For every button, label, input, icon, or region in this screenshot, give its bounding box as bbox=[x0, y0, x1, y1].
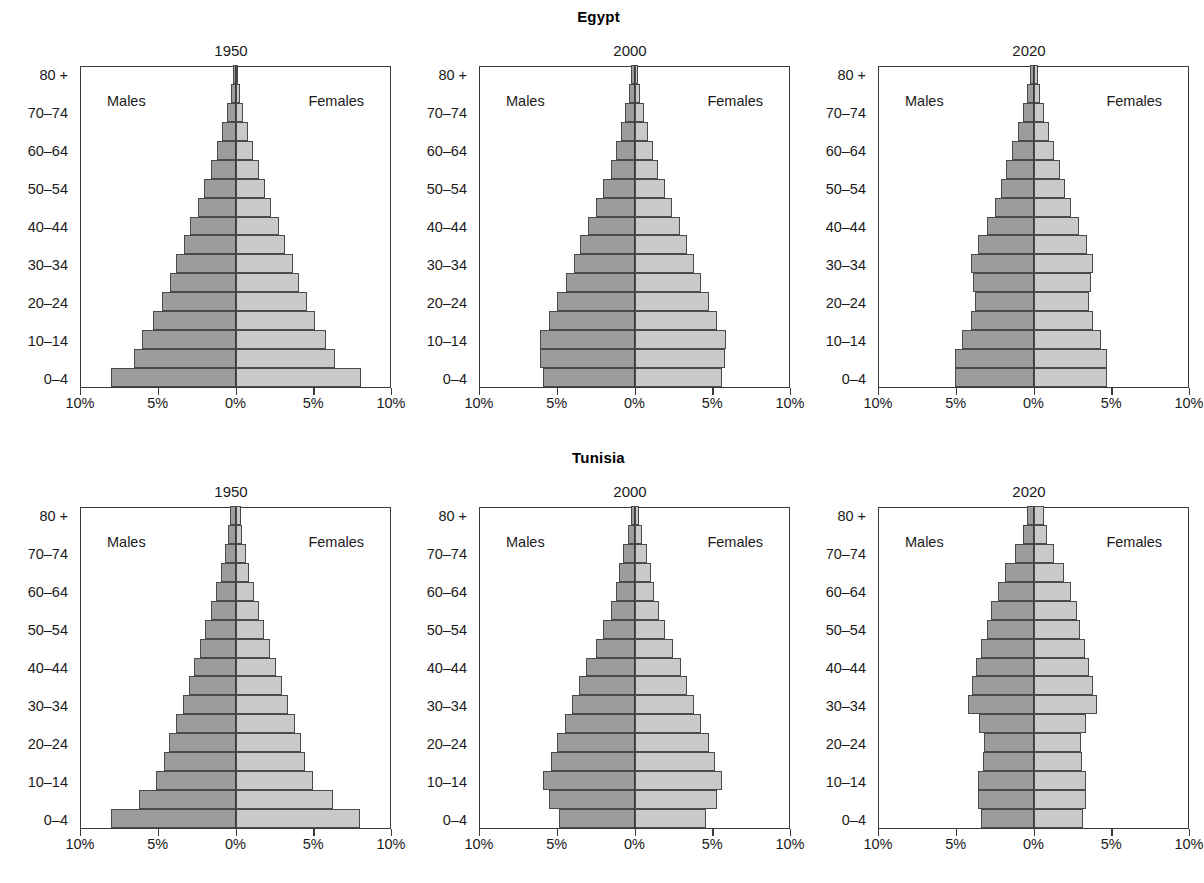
males-label: Males bbox=[107, 534, 146, 550]
plot-area: MalesFemales bbox=[80, 66, 391, 388]
year-title-tunisia-2020: 2020 bbox=[870, 483, 1188, 500]
bar-female bbox=[635, 582, 654, 601]
bar-female bbox=[635, 235, 688, 254]
bar-male bbox=[596, 639, 635, 658]
bar-male bbox=[586, 658, 634, 677]
bar-male bbox=[603, 620, 634, 639]
bar-male bbox=[619, 563, 635, 582]
bar-female bbox=[236, 714, 295, 733]
bar-male bbox=[222, 122, 235, 141]
y-tick-label: 10–14 bbox=[28, 774, 68, 790]
bar-male bbox=[981, 639, 1033, 658]
bar-male bbox=[189, 676, 236, 695]
bar-female bbox=[236, 695, 289, 714]
x-tick bbox=[1111, 388, 1112, 395]
bar-male bbox=[543, 771, 635, 790]
bar-male bbox=[164, 752, 236, 771]
bar-female bbox=[236, 544, 246, 563]
bar-male bbox=[603, 179, 634, 198]
x-tick-label: 0% bbox=[624, 395, 645, 411]
y-tick-label: 70–74 bbox=[826, 546, 866, 562]
bar-female bbox=[635, 620, 665, 639]
bar-female bbox=[635, 179, 665, 198]
bar-female bbox=[236, 311, 315, 330]
bar-male bbox=[557, 292, 635, 311]
bar-female bbox=[1034, 506, 1044, 525]
bar-female bbox=[635, 122, 649, 141]
bar-male bbox=[1015, 544, 1034, 563]
x-tick-label: 5% bbox=[147, 836, 168, 852]
bar-female bbox=[635, 217, 680, 236]
country-row-egypt: Egypt 19500–410–1420–2430–3440–4450–5460… bbox=[0, 0, 1197, 441]
y-tick-label: 80 + bbox=[438, 67, 467, 83]
bar-male bbox=[574, 254, 635, 273]
pyramid-tunisia-2000: 20000–410–1420–2430–3440–4450–5460–6470–… bbox=[399, 483, 789, 883]
bar-female bbox=[236, 198, 272, 217]
bar-male bbox=[169, 733, 236, 752]
bar-male bbox=[580, 235, 634, 254]
x-tick-label: 5% bbox=[303, 395, 324, 411]
y-axis-labels: 0–410–1420–2430–3440–4450–5460–6470–7480… bbox=[399, 507, 473, 829]
bar-male bbox=[216, 582, 235, 601]
x-tick bbox=[790, 388, 791, 395]
bar-male bbox=[987, 217, 1034, 236]
bar-female bbox=[1034, 84, 1041, 103]
bar-female bbox=[635, 368, 722, 387]
bar-female bbox=[236, 349, 336, 368]
bar-male bbox=[139, 790, 235, 809]
x-tick bbox=[391, 829, 392, 836]
bar-male bbox=[978, 771, 1034, 790]
plot-area: MalesFemales bbox=[878, 507, 1189, 829]
bar-male bbox=[221, 563, 236, 582]
y-tick-label: 40–44 bbox=[427, 219, 467, 235]
x-tick bbox=[313, 829, 314, 836]
x-tick bbox=[712, 829, 713, 836]
bar-male bbox=[176, 254, 235, 273]
bar-male bbox=[543, 368, 635, 387]
y-tick-label: 50–54 bbox=[427, 622, 467, 638]
bar-male bbox=[111, 809, 235, 828]
bar-female bbox=[1034, 330, 1102, 349]
y-tick-label: 0–4 bbox=[44, 371, 68, 387]
y-tick-label: 0–4 bbox=[443, 371, 467, 387]
bar-female bbox=[1034, 790, 1086, 809]
bar-female bbox=[236, 639, 270, 658]
x-tick-label: 10% bbox=[65, 836, 94, 852]
y-tick-label: 30–34 bbox=[427, 257, 467, 273]
bar-female bbox=[1034, 676, 1094, 695]
x-tick bbox=[236, 388, 237, 395]
bar-female bbox=[635, 771, 723, 790]
x-tick-label: 0% bbox=[225, 395, 246, 411]
bar-female bbox=[236, 790, 334, 809]
pyramid-egypt-1950: 19500–410–1420–2430–3440–4450–5460–6470–… bbox=[0, 42, 390, 442]
bar-female bbox=[236, 368, 362, 387]
bar-male bbox=[971, 254, 1033, 273]
bar-female bbox=[1034, 563, 1064, 582]
x-tick-label: 5% bbox=[546, 836, 567, 852]
bar-male bbox=[211, 601, 236, 620]
bar-female bbox=[236, 141, 254, 160]
bar-female bbox=[1034, 65, 1039, 84]
bar-male bbox=[565, 714, 635, 733]
zero-axis-line bbox=[1033, 508, 1034, 828]
y-tick-label: 80 + bbox=[39, 67, 68, 83]
bar-male bbox=[153, 311, 235, 330]
bar-female bbox=[1034, 714, 1087, 733]
x-tick bbox=[1034, 388, 1035, 395]
bar-female bbox=[1034, 620, 1081, 639]
y-tick-label: 10–14 bbox=[28, 333, 68, 349]
males-label: Males bbox=[506, 534, 545, 550]
bar-male bbox=[134, 349, 235, 368]
bar-female bbox=[1034, 122, 1050, 141]
y-tick-label: 60–64 bbox=[28, 143, 68, 159]
bar-female bbox=[1034, 601, 1078, 620]
bar-male bbox=[991, 601, 1034, 620]
males-label: Males bbox=[905, 93, 944, 109]
x-tick-label: 10% bbox=[1174, 395, 1203, 411]
bar-male bbox=[551, 752, 635, 771]
x-axis-labels: 10%5%0%5%10% bbox=[80, 836, 391, 858]
bar-female bbox=[635, 198, 672, 217]
plot-area: MalesFemales bbox=[878, 66, 1189, 388]
bar-male bbox=[995, 198, 1033, 217]
x-tick bbox=[878, 388, 879, 395]
